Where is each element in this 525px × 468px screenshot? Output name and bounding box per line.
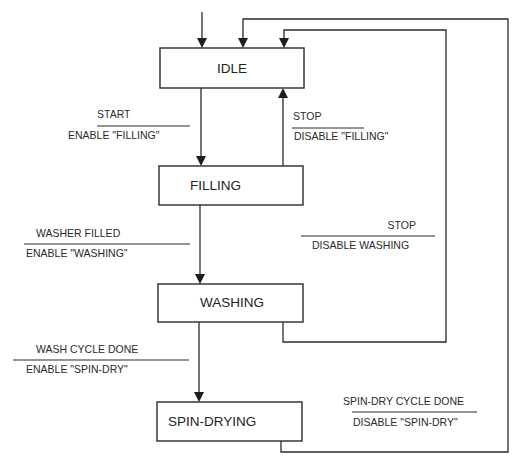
state-idle-label: IDLE (217, 61, 247, 76)
state-washing: WASHING (158, 284, 303, 322)
label-washer-filled: WASHER FILLED ENABLE "WASHING" (24, 227, 190, 259)
label-stop-filling-action: DISABLE "FILLING" (294, 130, 389, 142)
state-diagram: IDLE FILLING WASHING SPIN-DRYING START E… (0, 0, 525, 468)
label-stop-filling-event: STOP (293, 110, 321, 122)
state-spin-drying-label: SPIN-DRYING (168, 414, 256, 429)
label-wash-done-action: ENABLE "SPIN-DRY" (26, 363, 128, 375)
label-washer-filled-action: ENABLE "WASHING" (26, 247, 128, 259)
state-idle: IDLE (160, 48, 304, 88)
state-washing-label: WASHING (200, 295, 264, 310)
label-wash-done-event: WASH CYCLE DONE (36, 343, 138, 355)
label-start: START ENABLE "FILLING" (68, 108, 190, 141)
transition-stop-filling-arrowhead (278, 88, 288, 98)
state-spin-drying: SPIN-DRYING (157, 402, 302, 441)
label-wash-done: WASH CYCLE DONE ENABLE "SPIN-DRY" (13, 343, 189, 375)
label-start-action: ENABLE "FILLING" (68, 129, 160, 141)
transition-start-arrowhead (196, 156, 206, 166)
label-stop-washing-event: STOP (388, 219, 416, 231)
label-start-event: START (97, 108, 131, 120)
transition-stop-washing-arrowhead (279, 38, 289, 48)
transition-stop-washing-path (283, 30, 446, 342)
transition-washer-filled-arrowhead (195, 274, 205, 284)
transition-spin-done-arrowhead (238, 38, 248, 48)
label-spin-done-event: SPIN-DRY CYCLE DONE (343, 395, 464, 407)
label-stop-washing-action: DISABLE WASHING (312, 239, 409, 251)
label-stop-washing: STOP DISABLE WASHING (301, 219, 435, 251)
transition-wash-done-arrowhead (194, 392, 204, 402)
state-filling-label: FILLING (190, 178, 241, 193)
initial-arrowhead (197, 38, 207, 48)
state-filling: FILLING (159, 166, 303, 205)
label-spin-done-action: DISABLE "SPIN-DRY" (353, 416, 458, 428)
label-stop-filling: STOP DISABLE "FILLING" (292, 110, 389, 142)
label-washer-filled-event: WASHER FILLED (36, 227, 121, 239)
label-spin-done: SPIN-DRY CYCLE DONE DISABLE "SPIN-DRY" (343, 395, 477, 428)
